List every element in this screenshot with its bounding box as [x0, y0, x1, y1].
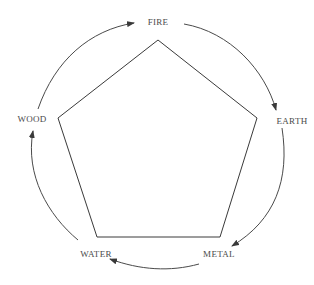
label-fire: FIRE: [148, 17, 169, 27]
label-earth: EARTH: [277, 116, 308, 126]
arrow-metal-to-water: [110, 259, 199, 269]
label-wood: WOOD: [17, 114, 46, 124]
label-water: WATER: [80, 249, 112, 259]
arrow-water-to-wood: [31, 131, 78, 240]
inner-pentagon: [58, 40, 257, 237]
label-metal: METAL: [203, 249, 235, 259]
arrow-earth-to-metal: [232, 128, 284, 246]
five-elements-diagram: FIRE EARTH METAL WATER WOOD: [0, 0, 314, 285]
